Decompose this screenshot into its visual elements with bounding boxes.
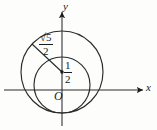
center-offset-numerator: 1: [64, 60, 72, 71]
geometry-figure: y x O √5 2 1 2: [0, 0, 157, 130]
center-offset-fraction-label: 1 2: [64, 60, 72, 85]
radius-fraction-label: √5 2: [39, 32, 53, 57]
center-offset-denominator: 2: [64, 74, 72, 85]
radius-denominator: 2: [39, 46, 53, 57]
origin-label: O: [54, 90, 63, 102]
x-axis-label: x: [146, 82, 151, 93]
figure-canvas: [0, 0, 157, 130]
radius-numerator: √5: [39, 32, 53, 43]
y-axis-label: y: [63, 1, 68, 12]
